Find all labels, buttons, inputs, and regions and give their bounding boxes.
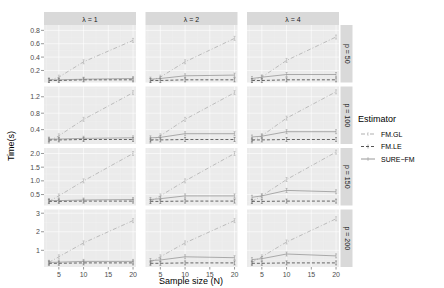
y-axis-title: Time(s)	[6, 131, 16, 161]
legend-item-fm-gl: FM.GL	[361, 131, 402, 138]
y-axis-row-2: 0.40.81.2	[30, 93, 44, 133]
panel-r3-c1	[44, 148, 136, 206]
y-axis-row-3: 0.51.01.52.0	[30, 150, 44, 198]
svg-text:15: 15	[104, 271, 112, 278]
svg-text:2.0: 2.0	[30, 150, 40, 157]
row-strip-1: p = 50	[341, 25, 353, 83]
row-strip-4: p = 200	[341, 210, 353, 268]
svg-text:0.4: 0.4	[30, 126, 40, 133]
svg-text:FM.GL: FM.GL	[381, 131, 402, 138]
svg-text:20: 20	[332, 271, 340, 278]
svg-text:0.8: 0.8	[30, 110, 40, 117]
panel-r1-c1	[44, 25, 136, 83]
legend-item-fm-le: FM.LE	[361, 143, 402, 150]
svg-text:5: 5	[260, 271, 264, 278]
svg-text:λ = 1: λ = 1	[82, 16, 97, 23]
svg-text:SURE−FM: SURE−FM	[381, 156, 415, 163]
svg-text:0.4: 0.4	[30, 54, 40, 61]
panel-r2-c2	[146, 87, 238, 145]
svg-text:1.0: 1.0	[30, 177, 40, 184]
panel-r4-c3	[247, 210, 339, 268]
panel-r3-c3	[247, 148, 339, 206]
column-strip-1: λ = 1	[44, 12, 136, 25]
svg-text:1.5: 1.5	[30, 164, 40, 171]
svg-text:FM.LE: FM.LE	[381, 143, 402, 150]
svg-text:p = 150: p = 150	[343, 165, 351, 189]
svg-text:p = 100: p = 100	[343, 103, 351, 127]
legend-title: Estimator	[358, 114, 396, 124]
x-axis-col-1: 5101520	[57, 267, 137, 278]
svg-text:2: 2	[36, 228, 40, 235]
column-strip-2: λ = 2	[146, 12, 238, 25]
svg-text:λ = 2: λ = 2	[184, 16, 199, 23]
x-axis-title: Sample size (N)	[159, 276, 223, 286]
svg-text:10: 10	[80, 271, 88, 278]
svg-text:p = 200: p = 200	[343, 226, 351, 250]
column-strip-3: λ = 4	[247, 12, 339, 25]
panel-r2-c3	[247, 87, 339, 145]
svg-text:5: 5	[57, 271, 61, 278]
panel-r4-c2	[146, 210, 238, 268]
panel-r1-c3	[247, 25, 339, 83]
row-strip-3: p = 150	[341, 148, 353, 206]
svg-text:0.8: 0.8	[30, 27, 40, 34]
svg-text:λ = 4: λ = 4	[285, 16, 300, 23]
x-axis-col-3: 5101520	[260, 267, 340, 278]
legend: EstimatorFM.GLFM.LESURE−FM	[358, 114, 415, 163]
svg-text:0.6: 0.6	[30, 40, 40, 47]
panel-r2-c1	[44, 87, 136, 145]
svg-text:20: 20	[231, 271, 239, 278]
svg-text:20: 20	[129, 271, 137, 278]
svg-text:0.5: 0.5	[30, 191, 40, 198]
panel-r1-c2	[146, 25, 238, 83]
svg-text:1.2: 1.2	[30, 93, 40, 100]
svg-text:p = 50: p = 50	[343, 44, 351, 64]
y-axis-row-1: 0.20.40.60.8	[30, 27, 44, 74]
svg-text:1: 1	[36, 247, 40, 254]
svg-text:15: 15	[307, 271, 315, 278]
panel-r4-c1	[44, 210, 136, 268]
svg-text:10: 10	[283, 271, 291, 278]
svg-text:3: 3	[36, 210, 40, 217]
row-strip-2: p = 100	[341, 87, 353, 145]
faceted-line-chart: λ = 1λ = 2λ = 4p = 500.20.40.60.8p = 100…	[0, 0, 444, 288]
panel-r3-c2	[146, 148, 238, 206]
y-axis-row-4: 123	[36, 210, 44, 254]
svg-text:0.2: 0.2	[30, 67, 40, 74]
legend-item-sure-fm: SURE−FM	[361, 156, 415, 163]
